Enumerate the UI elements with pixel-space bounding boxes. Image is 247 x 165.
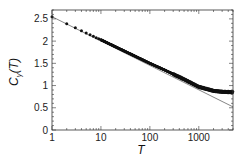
y-tick-label: 1 [42, 80, 48, 91]
y-axis-title: Cγ(T) [7, 58, 23, 86]
svg-text:Cγ(T): Cγ(T) [7, 58, 23, 86]
y-tick-label: 0 [42, 125, 48, 136]
plot-area [51, 15, 235, 107]
chart: 110100100000.511.522.5 T Cγ(T) [0, 0, 247, 165]
fit-line [52, 17, 233, 107]
x-axis-title: T [137, 143, 146, 157]
y-tick-label: 2.5 [34, 13, 48, 24]
x-tick-label: 100 [142, 132, 159, 143]
y-tick-label: 0.5 [34, 102, 48, 113]
data-series [51, 15, 235, 94]
y-tick-label: 2 [42, 36, 48, 47]
x-tick-label: 1 [49, 132, 55, 143]
y-tick-label: 1.5 [34, 58, 48, 69]
axes-frame [52, 10, 233, 130]
x-tick-label: 1000 [188, 132, 211, 143]
x-tick-label: 10 [95, 132, 107, 143]
axes: 110100100000.511.522.5 [34, 10, 233, 143]
